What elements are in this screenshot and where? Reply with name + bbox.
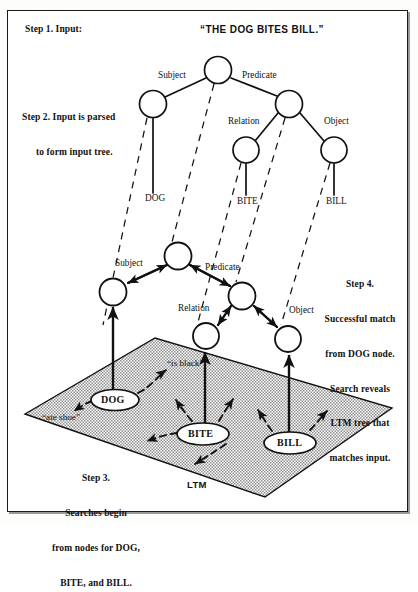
input-title-quote: “THE DOG BITES BILL.” xyxy=(200,24,324,35)
step2-label: Step 2. Input is parsed to form input tr… xyxy=(22,89,172,182)
input-terminal-bill: BILL xyxy=(326,196,347,206)
ltm-node-subject xyxy=(100,279,127,306)
ltm-label-predicate: Predicate xyxy=(205,262,240,272)
input-label-predicate: Predicate xyxy=(242,70,277,80)
step3-line-0: Step 3. xyxy=(18,473,174,485)
step2-line1: Step 2. Input is parsed xyxy=(22,112,172,124)
step4-line-2: from DOG node. xyxy=(312,349,408,361)
plane-node-dog-label: DOG xyxy=(101,394,125,405)
ltm-node-predicate xyxy=(229,283,256,310)
step4-line-0: Step 4. xyxy=(312,279,408,291)
input-node-object xyxy=(321,137,347,163)
ltm-label-relation: Relation xyxy=(178,303,210,313)
input-node-relation xyxy=(233,137,259,163)
input-label-subject: Subject xyxy=(158,70,186,80)
step4-block: Step 4. Successful match from DOG node. … xyxy=(312,256,408,488)
ltm-node-root xyxy=(165,243,192,270)
step1-label: Step 1. Input: xyxy=(25,24,82,36)
input-label-object: Object xyxy=(324,116,349,126)
plane-node-bite-label: BITE xyxy=(188,428,213,439)
step4-line-1: Successful match xyxy=(312,314,408,326)
ltm-label-object: Object xyxy=(289,305,314,315)
step3-line-3: BITE, and BILL. xyxy=(18,578,174,590)
assoc-ate-shoe: “ate shoe” xyxy=(42,412,80,422)
ltm-plane-label: LTM xyxy=(187,479,207,490)
step2-line2: to form input tree. xyxy=(22,147,172,159)
input-terminal-dog: DOG xyxy=(145,193,165,203)
input-node-root xyxy=(205,57,232,84)
step3-line-1: Searches begin xyxy=(18,508,174,520)
step4-line-3: Search reveals xyxy=(312,384,408,396)
dash-root xyxy=(172,84,214,242)
step3-line-2: from nodes for DOG, xyxy=(18,543,174,555)
input-terminal-bite: BITE xyxy=(237,196,258,206)
ltm-label-subject: Subject xyxy=(115,258,143,268)
assoc-is-black: “is black” xyxy=(167,358,203,368)
ltm-node-object xyxy=(275,326,301,352)
step4-line-5: matches input. xyxy=(312,453,408,465)
step3-block: Step 3. Searches begin from nodes for DO… xyxy=(18,450,174,592)
plane-node-bill-label: BILL xyxy=(277,437,302,448)
step4-line-4: LTM tree that xyxy=(312,418,408,430)
input-node-predicate xyxy=(276,91,303,118)
input-label-relation: Relation xyxy=(228,116,260,126)
ltm-node-relation xyxy=(193,323,219,349)
